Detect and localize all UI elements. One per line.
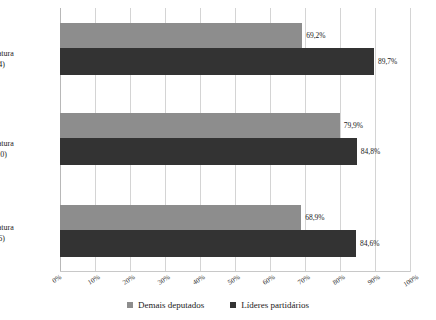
bar-demais-group-3[interactable] — [60, 205, 301, 230]
x-tick-label-0pct: 0% — [51, 274, 63, 285]
x-tick-label-100pct: 100% — [402, 274, 420, 289]
bar-value-label-lideres-group-1: 89,7% — [378, 58, 397, 66]
category-label-52-line2: (2003-6) — [0, 233, 56, 244]
chart-legend: Demais deputados Líderes partidários — [0, 300, 436, 310]
plot-area: 69,2%89,7%79,9%84,8%68,9%84,6% — [60, 8, 410, 272]
category-label-54-line1: 54ª legislatura — [0, 49, 14, 58]
x-tick-label-60pct: 60% — [262, 274, 277, 287]
legend-label-demais: Demais deputados — [138, 300, 204, 310]
bar-value-label-demais-group-2: 79,9% — [344, 122, 363, 130]
category-label-52-line1: 52ª legislatura — [0, 223, 14, 232]
bar-chart: 54ª legislatura (2011-4) 53ª legislatura… — [0, 0, 436, 320]
category-axis-labels: 54ª legislatura (2011-4) 53ª legislatura… — [0, 8, 60, 272]
gridline-100pct — [410, 8, 411, 272]
bar-value-label-demais-group-1: 69,2% — [306, 32, 325, 40]
bar-demais-group-2[interactable] — [60, 113, 340, 138]
bar-value-label-demais-group-3: 68,9% — [305, 214, 324, 222]
legend-item-demais-deputados[interactable]: Demais deputados — [127, 300, 204, 310]
bar-lideres-group-3[interactable] — [60, 230, 356, 257]
x-tick-label-50pct: 50% — [227, 274, 242, 287]
category-label-54: 54ª legislatura (2011-4) — [0, 48, 56, 70]
category-label-53: 53ª legislatura (2007-10) — [0, 138, 56, 160]
bar-demais-group-1[interactable] — [60, 23, 302, 48]
x-tick-label-40pct: 40% — [192, 274, 207, 287]
bar-value-label-lideres-group-2: 84,8% — [361, 148, 380, 156]
x-tick-label-70pct: 70% — [297, 274, 312, 287]
x-tick-label-80pct: 80% — [332, 274, 347, 287]
x-tick-label-10pct: 10% — [87, 274, 102, 287]
legend-swatch-icon-lideres — [230, 302, 236, 308]
legend-label-lideres: Líderes partidários — [241, 300, 309, 310]
bar-lideres-group-1[interactable] — [60, 48, 374, 75]
category-label-52: 52ª legislatura (2003-6) — [0, 222, 56, 244]
category-label-53-line1: 53ª legislatura — [0, 139, 14, 148]
legend-swatch-icon-demais — [127, 302, 133, 308]
x-tick-label-90pct: 90% — [367, 274, 382, 287]
category-label-54-line2: (2011-4) — [0, 59, 56, 70]
legend-item-lideres-partidarios[interactable]: Líderes partidários — [230, 300, 309, 310]
bar-value-label-lideres-group-3: 84,6% — [360, 240, 379, 248]
x-axis-tick-labels: 0%10%20%30%40%50%60%70%80%90%100% — [60, 274, 410, 296]
x-tick-label-30pct: 30% — [157, 274, 172, 287]
x-tick-label-20pct: 20% — [122, 274, 137, 287]
bars-layer: 69,2%89,7%79,9%84,8%68,9%84,6% — [60, 8, 410, 272]
bar-lideres-group-2[interactable] — [60, 138, 357, 165]
category-label-53-line2: (2007-10) — [0, 149, 56, 160]
